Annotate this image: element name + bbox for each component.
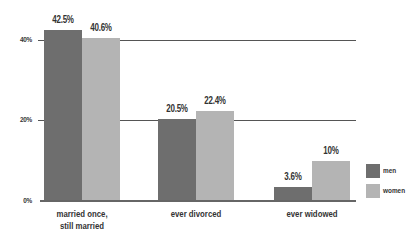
value-label: 40.6% xyxy=(81,22,121,33)
legend-swatch-women xyxy=(366,184,380,198)
legend-label-men: men xyxy=(383,166,396,175)
bar-men-1 xyxy=(158,119,196,201)
y-tick-40: 40% xyxy=(6,35,32,44)
value-label: 10% xyxy=(311,145,351,156)
value-label: 3.6% xyxy=(273,171,313,182)
y-tick-20: 20% xyxy=(6,115,32,124)
bar-men-0 xyxy=(44,30,82,201)
legend-label-women: women xyxy=(383,186,405,195)
bar-women-2 xyxy=(312,161,350,201)
x-category-label: ever widowed xyxy=(263,208,361,220)
value-label: 42.5% xyxy=(43,14,83,25)
legend-swatch-men xyxy=(366,164,380,178)
bar-men-2 xyxy=(274,187,312,201)
value-label: 22.4% xyxy=(195,95,235,106)
bar-women-1 xyxy=(196,111,234,201)
y-tick-0: 0% xyxy=(6,196,32,205)
x-axis-baseline xyxy=(40,200,356,202)
x-category-label: married once,still married xyxy=(33,208,131,232)
x-category-label: ever divorced xyxy=(147,208,245,220)
value-label: 20.5% xyxy=(157,103,197,114)
bar-women-0 xyxy=(82,38,120,201)
